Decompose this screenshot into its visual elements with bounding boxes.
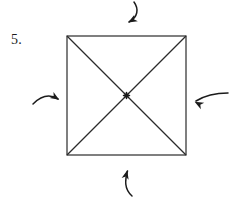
arrow-bottom [122, 169, 132, 196]
center-point-mark [124, 93, 130, 99]
arrow-top-head [126, 15, 137, 26]
figure-canvas: 5. [0, 0, 243, 203]
arrow-left-head [50, 92, 61, 103]
arrow-left [33, 92, 61, 104]
geometry-figure [0, 0, 243, 203]
arrow-right-tail [196, 93, 228, 101]
arrow-right [193, 93, 228, 109]
arrow-top [126, 2, 137, 26]
